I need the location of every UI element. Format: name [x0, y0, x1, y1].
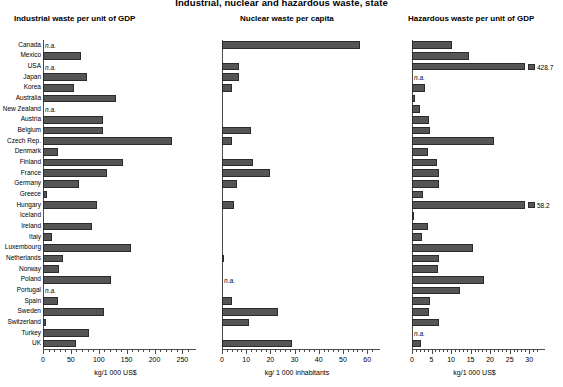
x-tick-minor [177, 350, 178, 352]
bar-row [195, 319, 390, 327]
x-tick-minor [138, 350, 139, 352]
x-tick-minor [463, 350, 464, 352]
x-tick-minor [110, 350, 111, 352]
x-tick-minor [338, 350, 339, 352]
bar-row [390, 84, 563, 92]
bar-austria [43, 116, 103, 124]
bar-row: n.a. [195, 276, 390, 284]
bar-row [390, 319, 563, 327]
x-tick-major [127, 350, 128, 354]
bar-iceland [412, 212, 414, 220]
x-tick-minor [372, 350, 373, 352]
na-marker: n.a. [45, 106, 56, 113]
bar-row [390, 95, 563, 103]
x-tick-major [71, 350, 72, 354]
bar-luxembourg [412, 244, 473, 252]
bar-czech-rep [412, 137, 494, 145]
bar-row [195, 233, 390, 241]
bar-netherlands [412, 255, 439, 263]
x-tick-label: 100 [93, 356, 105, 363]
bar-spain [43, 297, 58, 305]
x-tick-label: 40 [315, 356, 323, 363]
x-tick-major [222, 350, 223, 354]
x-tick-minor [82, 350, 83, 352]
x-tick-major [451, 350, 452, 354]
bar-uk [222, 340, 292, 348]
bar-belgium [222, 127, 251, 135]
x-tick-minor [60, 350, 61, 352]
bar-row [195, 244, 390, 252]
bar-row [390, 308, 563, 316]
bar-row [195, 73, 390, 81]
bar-denmark [412, 148, 428, 156]
bar-row [0, 244, 195, 252]
bar-spain [222, 297, 232, 305]
x-tick-label: 30 [291, 356, 299, 363]
bar-sweden [412, 308, 429, 316]
x-tick-minor [256, 350, 257, 352]
x-tick-minor [537, 350, 538, 352]
bar-korea [412, 84, 425, 92]
bar-netherlands [222, 255, 224, 263]
bar-row: n.a. [0, 105, 195, 113]
bar-mexico [43, 52, 81, 60]
x-tick-label: 200 [149, 356, 161, 363]
x-tick-minor [416, 350, 417, 352]
x-tick-label: 60 [363, 356, 371, 363]
x-tick-minor [54, 350, 55, 352]
bar-row [195, 340, 390, 348]
x-tick-major [529, 350, 530, 354]
x-tick-label: 150 [121, 356, 133, 363]
x-tick-minor [116, 350, 117, 352]
bar-row [390, 191, 563, 199]
bar-row [0, 95, 195, 103]
bar-row [195, 159, 390, 167]
x-tick-minor [266, 350, 267, 352]
bar-row [390, 180, 563, 188]
x-tick-minor [467, 350, 468, 352]
bar-row: 58.2 [390, 201, 563, 209]
bar-row [390, 127, 563, 135]
x-tick-minor [447, 350, 448, 352]
bar-row [0, 308, 195, 316]
bar-row [0, 169, 195, 177]
bar-germany [222, 180, 237, 188]
x-tick-minor [314, 350, 315, 352]
x-tick-minor [132, 350, 133, 352]
bar-turkey [43, 329, 89, 337]
bar-netherlands [43, 255, 63, 263]
x-tick-minor [348, 350, 349, 352]
bar-row [390, 244, 563, 252]
x-tick-minor [188, 350, 189, 352]
x-tick-minor [455, 350, 456, 352]
bar-row [0, 265, 195, 273]
bar-row: 428.7 [390, 63, 563, 71]
bar-germany [412, 180, 439, 188]
bar-belgium [43, 127, 103, 135]
bar-row [0, 255, 195, 263]
bar-row [390, 340, 563, 348]
x-tick-minor [362, 350, 363, 352]
bar-row [195, 41, 390, 49]
x-tick-minor [494, 350, 495, 352]
bar-poland [43, 276, 111, 284]
x-tick-minor [171, 350, 172, 352]
x-tick-minor [424, 350, 425, 352]
bar-row: n.a. [0, 287, 195, 295]
bar-new-zealand [412, 105, 420, 113]
x-tick-major [367, 350, 368, 354]
x-tick-label: 25 [506, 356, 514, 363]
x-tick-label: 0 [220, 356, 224, 363]
x-axis-title-0: kg/1 000 US$ [94, 369, 136, 376]
x-tick-minor [261, 350, 262, 352]
bar-spain [412, 297, 430, 305]
bar-row [195, 255, 390, 263]
na-marker: n.a. [45, 287, 56, 294]
bar-row [195, 63, 390, 71]
x-tick-minor [533, 350, 534, 352]
x-tick-minor [525, 350, 526, 352]
bar-row [390, 169, 563, 177]
bar-japan [43, 73, 87, 81]
bar-row [0, 212, 195, 220]
bar-poland [412, 276, 484, 284]
